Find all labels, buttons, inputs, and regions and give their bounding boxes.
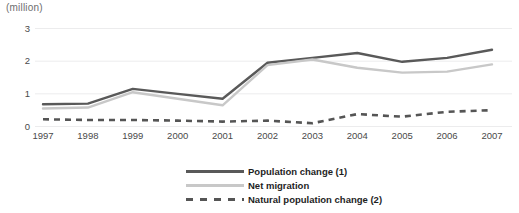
series-line-0 (43, 50, 492, 105)
series-line-2 (43, 110, 492, 123)
legend-item-net-migration: Net migration (186, 178, 382, 192)
legend-swatch-population-change (186, 166, 244, 176)
y-tick-label: 3 (14, 23, 30, 34)
x-tick-label: 2004 (337, 130, 377, 141)
x-tick-label: 1998 (68, 130, 108, 141)
y-tick-label: 1 (14, 88, 30, 99)
x-tick-label: 2006 (427, 130, 467, 141)
legend-label-population-change: Population change (1) (248, 166, 347, 177)
legend-label-net-migration: Net migration (248, 180, 309, 191)
legend-label-natural-population-change: Natural population change (2) (248, 194, 382, 205)
legend-item-population-change: Population change (1) (186, 164, 382, 178)
legend-item-natural-population-change: Natural population change (2) (186, 192, 382, 206)
x-tick-label: 1997 (23, 130, 63, 141)
legend-swatch-net-migration (186, 180, 244, 190)
x-tick-label: 1999 (113, 130, 153, 141)
x-tick-label: 2005 (382, 130, 422, 141)
legend-swatch-natural-population-change (186, 194, 244, 204)
x-tick-label: 2007 (472, 130, 512, 141)
x-tick-label: 2003 (292, 130, 332, 141)
y-tick-label: 2 (14, 55, 30, 66)
series-line-1 (43, 60, 492, 109)
chart-legend: Population change (1) Net migration Natu… (186, 164, 382, 206)
chart-container: (million) 0123 1997199819992000200120022… (0, 0, 519, 213)
x-tick-label: 2002 (248, 130, 288, 141)
x-tick-label: 2001 (203, 130, 243, 141)
x-tick-label: 2000 (158, 130, 198, 141)
